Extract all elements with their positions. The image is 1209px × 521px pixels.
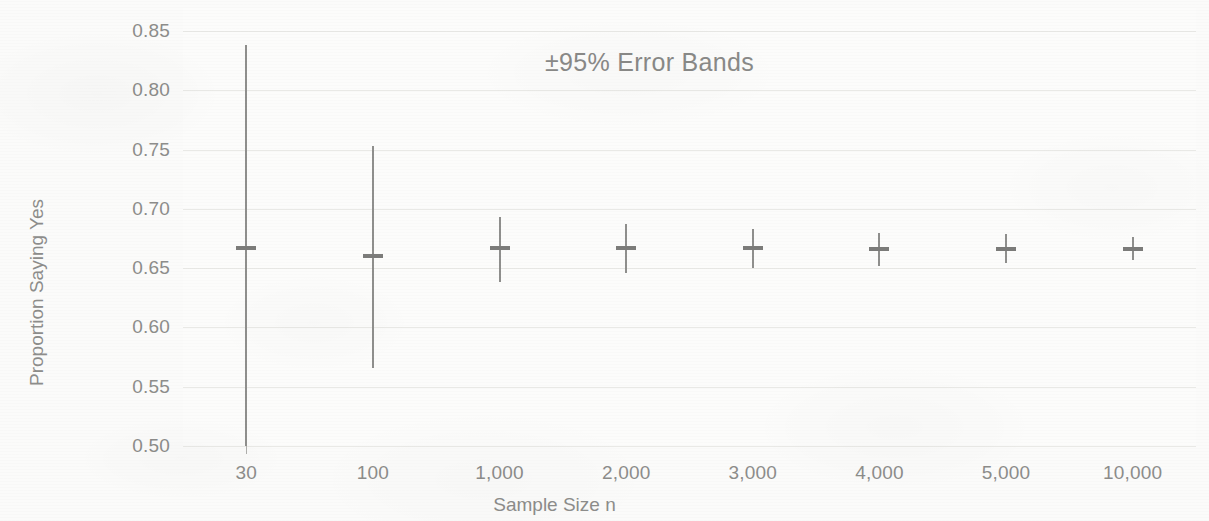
y-axis-tick-label: 0.60 <box>132 316 170 338</box>
gridline <box>183 31 1196 32</box>
data-point-marker <box>869 247 889 251</box>
y-axis-tick-label: 0.55 <box>132 376 170 398</box>
x-axis-tick-mark <box>373 446 374 454</box>
x-axis-tick-mark <box>246 446 247 454</box>
data-point-marker <box>490 246 510 250</box>
x-axis-tick-mark <box>500 446 501 454</box>
x-axis-tick-label: 100 <box>357 462 389 484</box>
chart-figure: 0.500.550.600.650.700.750.800.85 301001,… <box>0 0 1209 521</box>
gridline <box>183 209 1196 210</box>
data-point-marker <box>1123 247 1143 251</box>
x-axis-tick-label: 5,000 <box>982 462 1031 484</box>
gridline <box>183 150 1196 151</box>
data-point-marker <box>616 246 636 250</box>
x-axis-tick-label: 1,000 <box>475 462 524 484</box>
y-axis-title: Proportion Saying Yes <box>26 199 48 386</box>
y-axis-tick-label: 0.85 <box>132 20 170 42</box>
data-point-marker <box>743 246 763 250</box>
x-axis-tick-mark <box>879 446 880 454</box>
gridline <box>183 90 1196 91</box>
data-point-marker <box>236 246 256 250</box>
x-axis-tick-label: 4,000 <box>855 462 904 484</box>
data-point-marker <box>363 254 383 258</box>
y-axis-tick-label: 0.75 <box>132 139 170 161</box>
x-axis-tick-label: 2,000 <box>602 462 651 484</box>
gridline <box>183 446 1196 447</box>
chart-title: ±95% Error Bands <box>545 48 754 77</box>
gridline <box>183 268 1196 269</box>
y-axis-tick-label: 0.70 <box>132 198 170 220</box>
gridline <box>183 387 1196 388</box>
x-axis-tick-mark <box>753 446 754 454</box>
x-axis-tick-label: 10,000 <box>1103 462 1162 484</box>
x-axis-tick-mark <box>626 446 627 454</box>
gridline <box>183 327 1196 328</box>
x-axis-tick-mark <box>1133 446 1134 454</box>
x-axis-title: Sample Size n <box>493 494 616 516</box>
x-axis-tick-label: 30 <box>236 462 258 484</box>
y-axis-tick-label: 0.80 <box>132 79 170 101</box>
y-axis-tick-label: 0.50 <box>132 435 170 457</box>
y-axis-tick-label: 0.65 <box>132 257 170 279</box>
data-point-marker <box>996 247 1016 251</box>
x-axis-tick-label: 3,000 <box>729 462 778 484</box>
x-axis-tick-mark <box>1006 446 1007 454</box>
